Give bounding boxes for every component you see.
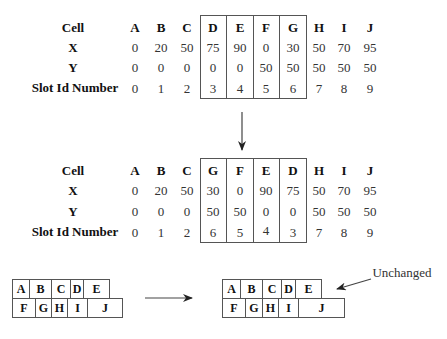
layout-cell: B xyxy=(240,279,263,299)
slot-value: 9 xyxy=(367,81,374,97)
row-label-x: X xyxy=(68,183,77,199)
y-value: 50 xyxy=(338,60,351,76)
layout-cell: D xyxy=(281,279,296,299)
cell-header: H xyxy=(314,20,324,36)
slot-value: 0 xyxy=(132,81,139,97)
column-divider xyxy=(253,158,254,243)
y-value: 50 xyxy=(260,60,273,76)
cell-header: B xyxy=(157,20,166,36)
cell-header: C xyxy=(182,163,191,179)
y-value: 0 xyxy=(263,204,270,220)
y-value: 50 xyxy=(313,204,326,220)
layout-cell: C xyxy=(262,279,282,299)
layout-cell: G xyxy=(245,298,263,318)
layout-cell: I xyxy=(67,298,88,318)
y-value: 0 xyxy=(290,204,297,220)
y-value: 0 xyxy=(132,204,139,220)
slot-value: 5 xyxy=(263,81,270,97)
y-value: 50 xyxy=(338,204,351,220)
cell-header: H xyxy=(314,163,324,179)
slot-value: 4 xyxy=(237,81,244,97)
x-value: 0 xyxy=(263,40,270,56)
x-value: 75 xyxy=(287,183,300,199)
column-divider xyxy=(226,158,227,243)
slot-value: 2 xyxy=(184,81,191,97)
y-value: 50 xyxy=(364,60,377,76)
x-value: 50 xyxy=(181,40,194,56)
row-label-x: X xyxy=(68,40,77,56)
column-divider xyxy=(279,158,280,243)
slot-value: 6 xyxy=(290,81,297,97)
row-label-slot-id: Slot Id Number xyxy=(32,224,119,240)
slot-value: 4 xyxy=(263,223,270,239)
row-label-y: Y xyxy=(68,204,77,220)
layout-cell: G xyxy=(35,298,52,318)
layout-cell: E xyxy=(83,279,110,299)
x-value: 50 xyxy=(313,183,326,199)
layout-cell: D xyxy=(70,279,84,299)
x-value: 30 xyxy=(207,183,220,199)
cell-header: F xyxy=(236,163,244,179)
cell-header: E xyxy=(262,163,271,179)
y-value: 50 xyxy=(364,204,377,220)
layout-cell: F xyxy=(12,298,36,318)
y-value: 0 xyxy=(132,60,139,76)
x-value: 95 xyxy=(364,183,377,199)
row-label-y: Y xyxy=(68,60,77,76)
layout-cell: C xyxy=(51,279,71,299)
x-value: 50 xyxy=(313,40,326,56)
layout-cell: I xyxy=(278,298,299,318)
x-value: 0 xyxy=(237,183,244,199)
y-value: 50 xyxy=(234,204,247,220)
cell-header: B xyxy=(157,163,166,179)
column-divider xyxy=(253,15,254,99)
cell-header: G xyxy=(288,20,298,36)
x-value: 30 xyxy=(287,40,300,56)
y-value: 50 xyxy=(313,60,326,76)
slot-value: 7 xyxy=(316,225,323,241)
layout-cell: F xyxy=(222,298,246,318)
cell-header: E xyxy=(236,20,245,36)
slot-value: 3 xyxy=(210,81,217,97)
y-value: 0 xyxy=(184,60,191,76)
x-value: 90 xyxy=(260,183,273,199)
slot-value: 7 xyxy=(316,81,323,97)
cell-header: I xyxy=(341,163,346,179)
x-value: 75 xyxy=(207,40,220,56)
column-divider xyxy=(226,15,227,99)
slot-value: 9 xyxy=(367,225,374,241)
cell-header: I xyxy=(341,20,346,36)
cell-header: D xyxy=(288,163,297,179)
layout-cell: B xyxy=(29,279,52,299)
slot-value: 5 xyxy=(237,225,244,241)
cell-header: A xyxy=(130,163,139,179)
slot-value: 8 xyxy=(341,81,348,97)
y-value: 0 xyxy=(158,204,165,220)
x-value: 70 xyxy=(338,40,351,56)
column-divider xyxy=(279,15,280,99)
slot-value: 2 xyxy=(184,225,191,241)
slot-value: 1 xyxy=(158,225,165,241)
slot-value: 8 xyxy=(341,225,348,241)
layout-cell: A xyxy=(222,279,241,299)
cell-header: G xyxy=(208,163,218,179)
y-value: 50 xyxy=(207,204,220,220)
x-value: 70 xyxy=(338,183,351,199)
layout-cell: H xyxy=(262,298,279,318)
layout-cell: J xyxy=(87,298,123,318)
x-value: 90 xyxy=(234,40,247,56)
slot-value: 6 xyxy=(210,225,217,241)
y-value: 0 xyxy=(237,60,244,76)
row-label-cell: Cell xyxy=(62,20,84,36)
slot-value: 3 xyxy=(290,225,297,241)
annotation-arrow-icon xyxy=(337,279,371,289)
cell-header: D xyxy=(208,20,217,36)
layout-cell: A xyxy=(12,279,30,299)
y-value: 0 xyxy=(158,60,165,76)
cell-header: C xyxy=(182,20,191,36)
y-value: 0 xyxy=(184,204,191,220)
row-label-slot-id: Slot Id Number xyxy=(32,80,119,96)
cell-header: A xyxy=(130,20,139,36)
y-value: 50 xyxy=(287,60,300,76)
x-value: 95 xyxy=(364,40,377,56)
